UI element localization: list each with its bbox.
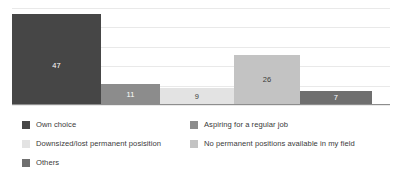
legend-item-label: Downsized/lost permanent posisition <box>36 140 161 148</box>
bar-segment[interactable]: 11 <box>101 84 160 105</box>
bar-segment[interactable]: 47 <box>12 14 101 105</box>
legend-item-label: Aspiring for a regular job <box>204 121 288 129</box>
legend-item[interactable]: Downsized/lost permanent posisition <box>22 135 161 152</box>
bar-segment[interactable]: 26 <box>234 55 300 105</box>
legend-item-label: Others <box>36 159 59 167</box>
bar-value-label: 47 <box>52 62 61 70</box>
chart-legend: Own choiceDownsized/lost permanent posis… <box>22 116 394 174</box>
bar-value-label: 7 <box>334 94 338 102</box>
bar-value-label: 9 <box>195 93 199 101</box>
bar-value-label: 11 <box>127 91 135 99</box>
legend-item-label: No permanent positions available in my f… <box>204 140 355 148</box>
legend-column-right: Aspiring for a regular jobNo permanent p… <box>190 116 355 154</box>
bar-value-label: 26 <box>263 76 272 84</box>
legend-item[interactable]: No permanent positions available in my f… <box>190 135 355 152</box>
legend-item-label: Own choice <box>36 121 76 129</box>
legend-item[interactable]: Others <box>22 154 161 171</box>
bar-segment[interactable]: 9 <box>160 88 234 105</box>
bar-series: 47119267 <box>12 8 390 105</box>
legend-swatch-icon <box>190 121 198 129</box>
bar-segment[interactable]: 7 <box>300 91 372 105</box>
plot-area: 47119267 <box>12 8 390 105</box>
legend-column-left: Own choiceDownsized/lost permanent posis… <box>22 116 161 173</box>
legend-swatch-icon <box>22 140 30 148</box>
legend-swatch-icon <box>190 140 198 148</box>
bar-chart: 47119267 Own choiceDownsized/lost perman… <box>0 0 406 182</box>
legend-item[interactable]: Aspiring for a regular job <box>190 116 355 133</box>
legend-item[interactable]: Own choice <box>22 116 161 133</box>
legend-swatch-icon <box>22 159 30 167</box>
legend-swatch-icon <box>22 121 30 129</box>
x-axis-line <box>12 104 390 105</box>
